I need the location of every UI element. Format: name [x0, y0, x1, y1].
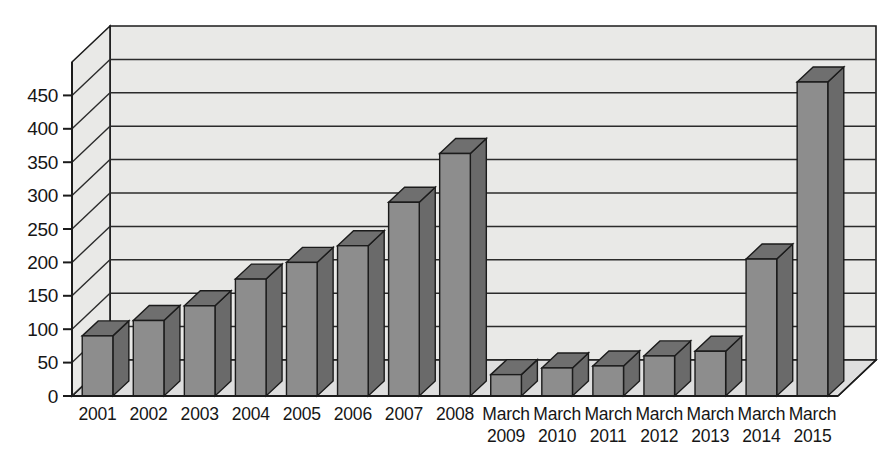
chart-canvas: 050100150200250300350400450 200120022003… [0, 0, 878, 462]
x-label-line: 2012 [640, 426, 678, 446]
bar-side-face [215, 291, 231, 396]
bar [286, 247, 333, 396]
x-label-line: 2007 [385, 404, 423, 424]
bar [82, 321, 129, 396]
bar-front-face [389, 202, 420, 396]
bar [440, 139, 487, 396]
bar-front-face [133, 321, 164, 396]
bar [184, 291, 231, 396]
x-axis-tick-label: 2002 [130, 404, 168, 424]
bar [133, 306, 180, 396]
bar [389, 187, 436, 396]
bar-front-face [286, 262, 317, 396]
y-axis-tick-label: 250 [27, 219, 58, 240]
x-label-line: 2002 [130, 404, 168, 424]
bar [338, 231, 385, 396]
x-axis-tick-label: 2003 [181, 404, 219, 424]
y-axis-tick-label: 200 [27, 252, 58, 273]
bar-front-face [695, 351, 726, 396]
bar [746, 244, 793, 396]
x-label-line: 2011 [590, 426, 627, 446]
x-axis-tick-label: 2001 [78, 404, 116, 424]
x-axis-tick-label: 2005 [283, 404, 321, 424]
x-label-line: March [738, 404, 786, 424]
y-axis-tick-label: 50 [37, 352, 58, 373]
x-axis-tick-label: 2007 [385, 404, 423, 424]
bar-side-face [419, 187, 435, 396]
bar-side-face [266, 264, 282, 396]
bar-side-face [470, 139, 486, 396]
bar-front-face [82, 336, 113, 396]
bar-front-face [235, 279, 266, 396]
x-label-line: March [789, 404, 837, 424]
bar-front-face [184, 306, 215, 396]
x-label-line: March [635, 404, 683, 424]
x-label-line: 2010 [538, 426, 577, 446]
y-axis-tick-label: 300 [27, 185, 58, 206]
x-label-line: 2003 [181, 404, 219, 424]
y-axis-tick-label: 100 [27, 319, 58, 340]
x-label-line: 2014 [742, 426, 781, 446]
bar-side-face [777, 244, 793, 396]
bar [235, 264, 282, 396]
bar-front-face [491, 375, 522, 396]
x-label-line: 2005 [283, 404, 321, 424]
bar-side-face [828, 67, 844, 396]
x-axis-tick-label: 2008 [436, 404, 474, 424]
x-label-line: 2015 [793, 426, 831, 446]
x-label-line: March [482, 404, 530, 424]
x-axis-tick-label: 2006 [334, 404, 372, 424]
y-axis-tick-label: 0 [48, 386, 58, 407]
y-axis-tick-label: 150 [27, 285, 58, 306]
bar-front-face [746, 259, 777, 396]
bar-chart: 050100150200250300350400450 200120022003… [0, 0, 878, 462]
y-axis-tick-label: 350 [27, 152, 58, 173]
x-label-line: 2013 [691, 426, 729, 446]
x-label-line: March [533, 404, 581, 424]
bar-front-face [593, 366, 624, 396]
bar-side-face [368, 231, 384, 396]
bar-front-face [542, 368, 573, 396]
bar-side-face [317, 247, 333, 396]
bar [797, 67, 844, 396]
bar-front-face [440, 154, 471, 396]
bar-front-face [338, 246, 369, 396]
x-label-line: 2006 [334, 404, 372, 424]
y-axis-tick-label: 400 [27, 118, 58, 139]
x-label-line: 2001 [78, 404, 116, 424]
bar [644, 341, 691, 396]
bar-front-face [644, 356, 675, 396]
x-label-line: 2008 [436, 404, 474, 424]
y-axis-tick-label: 450 [27, 85, 58, 106]
x-axis-tick-label: 2004 [232, 404, 271, 424]
x-label-line: 2004 [232, 404, 271, 424]
bar-front-face [797, 82, 828, 396]
x-label-line: March [584, 404, 632, 424]
x-label-line: 2009 [487, 426, 525, 446]
bar [695, 336, 742, 396]
x-label-line: March [687, 404, 735, 424]
